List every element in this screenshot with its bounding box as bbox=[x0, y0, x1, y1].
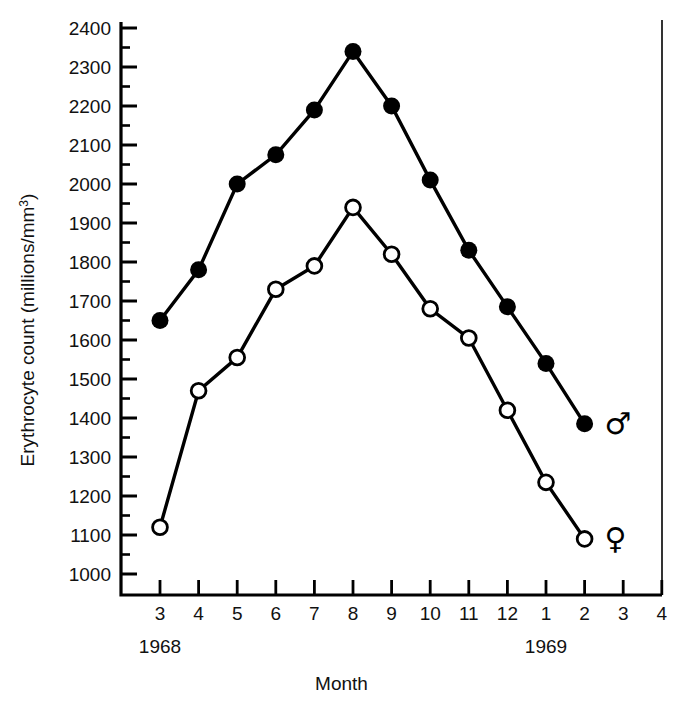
data-point-male[interactable] bbox=[152, 312, 169, 329]
y-tick-label: 1100 bbox=[70, 525, 111, 546]
data-point-male[interactable] bbox=[383, 98, 400, 115]
data-point-male[interactable] bbox=[538, 355, 555, 372]
figure-erythrocyte-count: 2400230022002100200019001800170016001500… bbox=[0, 0, 684, 705]
data-point-female[interactable] bbox=[461, 331, 476, 346]
legend-symbol-male: ♂ bbox=[605, 406, 632, 441]
chart-canvas: 2400230022002100200019001800170016001500… bbox=[0, 0, 684, 705]
x-tick-label: 10 bbox=[420, 603, 441, 624]
data-point-female[interactable] bbox=[500, 403, 515, 418]
x-tick-label: 1 bbox=[541, 603, 552, 624]
y-tick-label: 2400 bbox=[69, 18, 111, 39]
data-point-male[interactable] bbox=[499, 298, 516, 315]
legend-symbol-female: ♀ bbox=[605, 521, 627, 556]
data-point-female[interactable] bbox=[268, 282, 283, 297]
data-point-male[interactable] bbox=[190, 261, 207, 278]
y-tick-label: 1900 bbox=[69, 213, 111, 234]
x-tick-label: 12 bbox=[497, 603, 518, 624]
x-tick-label: 4 bbox=[657, 603, 668, 624]
data-point-female[interactable] bbox=[539, 475, 554, 490]
y-tick-label: 2300 bbox=[69, 57, 111, 78]
data-point-male[interactable] bbox=[345, 43, 362, 60]
data-point-female[interactable] bbox=[423, 301, 438, 316]
data-point-female[interactable] bbox=[153, 520, 168, 535]
x-tick-label: 7 bbox=[309, 603, 320, 624]
y-tick-label: 1600 bbox=[69, 330, 111, 351]
svg-text:Erythrocyte count (millions/mm: Erythrocyte count (millions/mm3) bbox=[17, 194, 38, 467]
x-tick-label: 2 bbox=[579, 603, 590, 624]
x-axis-title: Month bbox=[315, 673, 368, 694]
x-tick-label: 5 bbox=[232, 603, 243, 624]
y-tick-label: 1500 bbox=[69, 369, 111, 390]
x-tick-label: 6 bbox=[271, 603, 282, 624]
x-tick-label: 9 bbox=[386, 603, 397, 624]
x-tick-label: 3 bbox=[618, 603, 629, 624]
x-tick-label: 4 bbox=[193, 603, 204, 624]
data-point-male[interactable] bbox=[460, 242, 477, 259]
x-tick-label: 11 bbox=[459, 603, 479, 624]
data-point-male[interactable] bbox=[267, 146, 284, 163]
data-point-male[interactable] bbox=[422, 172, 439, 189]
y-tick-label: 1700 bbox=[69, 291, 111, 312]
y-tick-label: 2100 bbox=[69, 135, 111, 156]
y-tick-label: 1800 bbox=[69, 252, 111, 273]
y-tick-label: 1400 bbox=[69, 408, 111, 429]
series-line-female bbox=[160, 207, 585, 539]
data-point-female[interactable] bbox=[577, 532, 592, 547]
y-tick-label: 1300 bbox=[69, 447, 111, 468]
data-point-female[interactable] bbox=[384, 247, 399, 262]
x-tick-label: 8 bbox=[348, 603, 359, 624]
y-axis-title: Erythrocyte count (millions/mm3) bbox=[17, 194, 38, 467]
y-tick-label: 2000 bbox=[69, 174, 111, 195]
y-tick-label: 1000 bbox=[69, 564, 111, 585]
data-point-male[interactable] bbox=[576, 415, 593, 432]
data-point-female[interactable] bbox=[307, 259, 322, 274]
x-tick-label: 3 bbox=[155, 603, 166, 624]
x-year-label: 1969 bbox=[525, 636, 567, 657]
data-point-male[interactable] bbox=[306, 101, 323, 118]
data-point-female[interactable] bbox=[230, 350, 245, 365]
x-year-label: 1968 bbox=[139, 636, 181, 657]
data-point-male[interactable] bbox=[229, 176, 246, 193]
data-point-female[interactable] bbox=[191, 383, 206, 398]
y-tick-label: 2200 bbox=[69, 96, 111, 117]
y-tick-label: 1200 bbox=[69, 486, 111, 507]
data-point-female[interactable] bbox=[346, 200, 361, 215]
